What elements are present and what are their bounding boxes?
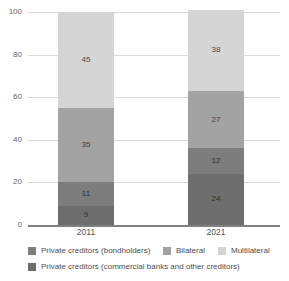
y-tick-label: 40 <box>13 136 22 144</box>
x-axis-label-2011: 2011 <box>58 228 114 237</box>
bar-2011[interactable]: 4535119 <box>58 12 114 225</box>
bar-segment[interactable]: 24 <box>188 174 244 225</box>
bar-segment-value: 12 <box>212 157 221 165</box>
bar-segment-value: 24 <box>212 195 221 203</box>
legend-label: Private creditors (commercial banks and … <box>41 263 240 271</box>
bar-segment-value: 38 <box>212 46 221 54</box>
y-tick-label: 100 <box>9 8 22 16</box>
legend-label: Private creditors (bondholders) <box>41 247 150 255</box>
y-tick-label: 60 <box>13 93 22 101</box>
legend-label: Bilateral <box>176 247 205 255</box>
stacked-bar-chart: 100806040200 453511938271224 20112021 Pr… <box>0 0 289 281</box>
bar-segment[interactable]: 9 <box>58 206 114 225</box>
legend-item[interactable]: Bilateral <box>163 243 205 259</box>
bar-series-container: 453511938271224 <box>28 12 280 225</box>
bar-segment[interactable]: 12 <box>188 148 244 174</box>
legend-label: Multilateral <box>231 247 270 255</box>
legend-row: Private creditors (commercial banks and … <box>0 259 289 275</box>
bar-2021[interactable]: 38271224 <box>188 10 244 225</box>
axis-baseline <box>28 225 280 227</box>
bar-segment-value: 35 <box>82 141 91 149</box>
y-axis-tick-labels: 100806040200 <box>0 12 26 225</box>
legend-swatch-icon <box>28 247 36 255</box>
plot-area: 453511938271224 <box>28 12 280 225</box>
legend-swatch-icon <box>28 263 36 271</box>
x-axis-label-2021: 2021 <box>188 228 244 237</box>
bar-segment-value: 27 <box>212 116 221 124</box>
chart-legend: Private creditors (bondholders)Bilateral… <box>0 243 289 275</box>
legend-row: Private creditors (bondholders)Bilateral… <box>0 243 289 259</box>
bar-segment[interactable]: 45 <box>58 12 114 108</box>
legend-swatch-icon <box>218 247 226 255</box>
bar-segment[interactable]: 38 <box>188 10 244 91</box>
legend-swatch-icon <box>163 247 171 255</box>
bar-segment-value: 9 <box>84 211 88 219</box>
bar-segment-value: 11 <box>82 190 90 198</box>
y-tick-label: 0 <box>18 221 22 229</box>
y-tick-label: 80 <box>13 51 22 59</box>
bar-segment[interactable]: 35 <box>58 108 114 183</box>
bar-segment[interactable]: 27 <box>188 91 244 149</box>
y-tick-label: 20 <box>13 178 22 186</box>
x-axis-category-labels: 20112021 <box>28 228 280 242</box>
legend-item[interactable]: Multilateral <box>218 243 270 259</box>
bar-segment[interactable]: 11 <box>58 182 114 205</box>
bar-segment-value: 45 <box>82 56 91 64</box>
legend-item[interactable]: Private creditors (commercial banks and … <box>28 259 240 275</box>
legend-item[interactable]: Private creditors (bondholders) <box>28 243 150 259</box>
